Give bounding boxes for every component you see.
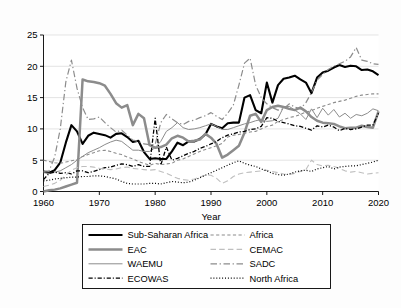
y-tick-label-10: 10 <box>27 123 38 134</box>
y-tick-label-15: 15 <box>27 92 38 103</box>
x-tick-label-2010: 2010 <box>312 197 333 208</box>
y-tick-label-5: 5 <box>32 155 37 166</box>
line-chart-figure: 05101520251960197019801990200020102020 Y… <box>0 0 401 308</box>
legend-label-ecowas: ECOWAS <box>128 274 169 284</box>
x-tick-label-1980: 1980 <box>145 197 166 208</box>
chart-svg: 05101520251960197019801990200020102020 Y… <box>0 0 401 308</box>
x-tick-label-2000: 2000 <box>256 197 277 208</box>
legend-label-waemu: WAEMU <box>128 259 163 269</box>
x-tick-label-2020: 2020 <box>368 197 389 208</box>
figure-page: 05101520251960197019801990200020102020 Y… <box>0 0 401 308</box>
x-axis-title: Year <box>201 211 220 222</box>
x-tick-label-1970: 1970 <box>89 197 110 208</box>
chart-legend[interactable]: Sub-Saharan AfricaEACWAEMUECOWASAfricaCE… <box>83 225 331 289</box>
legend-label-cemac: CEMAC <box>250 245 284 255</box>
legend-label-africa: Africa <box>250 230 275 240</box>
x-tick-label-1990: 1990 <box>200 197 221 208</box>
y-tick-label-20: 20 <box>27 61 38 72</box>
legend-label-sub-saharan-africa: Sub-Saharan Africa <box>128 230 209 240</box>
legend-label-north-africa: North Africa <box>250 274 299 284</box>
axis-title-group: Year <box>201 211 220 222</box>
x-tick-label-1960: 1960 <box>33 197 54 208</box>
legend-label-eac: EAC <box>128 245 147 255</box>
y-tick-label-0: 0 <box>32 186 37 197</box>
y-tick-label-25: 25 <box>27 29 38 40</box>
legend-label-sadc: SADC <box>250 259 276 269</box>
